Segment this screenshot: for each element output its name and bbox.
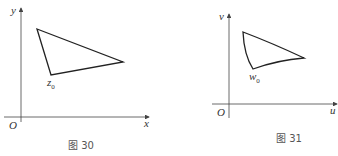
fig31-origin-label: O bbox=[217, 107, 225, 118]
fig30-point-label: z0 bbox=[47, 77, 55, 91]
fig30-origin-label: O bbox=[9, 120, 17, 131]
fig30-axes bbox=[4, 8, 149, 122]
fig31-point-label: w0 bbox=[249, 71, 260, 85]
fig30-caption: 图 30 bbox=[68, 141, 94, 151]
fig31-caption: 图 31 bbox=[276, 134, 302, 144]
fig31-u-label: u bbox=[330, 105, 336, 116]
fig30-y-label: y bbox=[11, 5, 16, 16]
fig30-x-label: x bbox=[144, 118, 149, 129]
fig31-curved-triangle bbox=[243, 32, 304, 69]
fig31-axes bbox=[212, 14, 337, 118]
fig31-v-label: v bbox=[219, 11, 224, 22]
fig30-triangle bbox=[37, 29, 123, 75]
